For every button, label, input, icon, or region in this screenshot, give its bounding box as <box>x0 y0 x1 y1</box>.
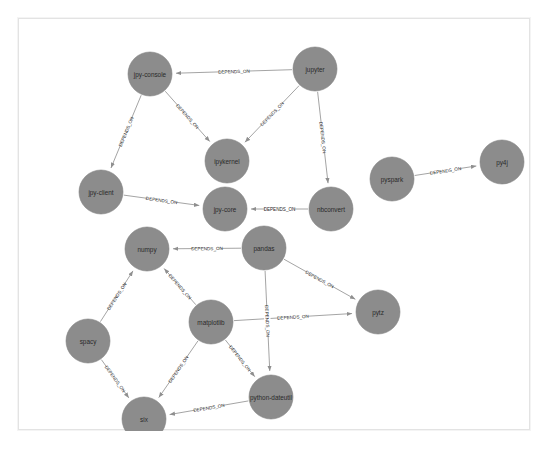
graph-canvas[interactable]: DEPENDS_ONDEPENDS_ONDEPENDS_ONDEPENDS_ON… <box>19 19 531 431</box>
node-circle[interactable] <box>79 170 123 214</box>
graph-edge-label: DEPENDS_ON <box>193 402 225 414</box>
graph-node-jupyter[interactable]: jupyter <box>293 47 337 91</box>
graph-node-pytz[interactable]: pytz <box>356 290 400 334</box>
edge-label-background <box>194 402 223 413</box>
graph-edge-label: DEPENDS_ON <box>145 195 177 206</box>
graph-edge-label: DEPENDS_ON <box>263 305 271 337</box>
edge-label-background <box>220 68 249 75</box>
edge-label-background <box>229 345 252 371</box>
graph-edge-label: DEPENDS_ON <box>103 364 127 393</box>
edge-label-background <box>106 283 127 310</box>
graph-edge-label: DEPENDS_ON <box>304 269 335 290</box>
graph-edge-label: DEPENDS_ON <box>264 206 296 212</box>
graph-node-pandas[interactable]: pandas <box>242 226 286 270</box>
graph-node-matplotlib[interactable]: matplotlib <box>189 300 233 344</box>
node-circle[interactable] <box>480 140 524 184</box>
edge-label-background <box>168 356 189 383</box>
graph-edge-label: DEPENDS_ON <box>167 273 193 301</box>
node-circle[interactable] <box>122 397 166 431</box>
node-circle[interactable] <box>356 290 400 334</box>
node-circle[interactable] <box>249 375 293 419</box>
node-circle[interactable] <box>242 226 286 270</box>
edge-label-background <box>431 165 460 176</box>
edge-label-background <box>104 365 126 392</box>
edge-label-background <box>264 307 272 336</box>
graph-visualization-app: DEPENDS_ONDEPENDS_ONDEPENDS_ONDEPENDS_ON… <box>0 0 553 449</box>
node-circle[interactable] <box>128 52 172 96</box>
edge-label-background <box>147 195 176 205</box>
edge-label-background <box>176 104 200 130</box>
edge-label-background <box>318 123 328 152</box>
node-circle[interactable] <box>203 187 247 231</box>
graph-node-numpy[interactable]: numpy <box>125 227 169 271</box>
graph-node-pyspark[interactable]: pyspark <box>370 157 414 201</box>
node-circle[interactable] <box>189 300 233 344</box>
edge-label-background <box>306 269 334 289</box>
graph-edge-label: DEPENDS_ON <box>228 344 253 373</box>
graph-node-python-dateutil[interactable]: python-dateutil <box>249 375 293 419</box>
graph-node-jpy-core[interactable]: jpy-core <box>203 187 247 231</box>
edge-label-background <box>265 206 294 212</box>
graph-canvas-frame[interactable]: DEPENDS_ONDEPENDS_ONDEPENDS_ONDEPENDS_ON… <box>18 18 530 430</box>
graph-edge-label: DEPENDS_ON <box>167 354 190 384</box>
graph-edge-label: DEPENDS_ON <box>191 245 223 252</box>
graph-edge-label: DEPENDS_ON <box>318 121 328 153</box>
edge-label-background <box>168 274 192 300</box>
edge-label-background <box>118 117 135 146</box>
graph-edge-label: DEPENDS_ON <box>117 116 135 148</box>
node-circle[interactable] <box>293 47 337 91</box>
node-circle[interactable] <box>370 157 414 201</box>
graph-node-jpy-console[interactable]: jpy-console <box>128 52 172 96</box>
graph-node-ipykernel[interactable]: ipykernel <box>205 139 249 183</box>
graph-edge-label: DEPENDS_ON <box>218 68 250 75</box>
node-circle[interactable] <box>309 187 353 231</box>
graph-node-py4j[interactable]: py4j <box>480 140 524 184</box>
graph-edge-label: DEPENDS_ON <box>105 281 127 311</box>
graph-node-six[interactable]: six <box>122 397 166 431</box>
graph-node-jpy-client[interactable]: jpy-client <box>79 170 123 214</box>
graph-edge-label: DEPENDS_ON <box>277 313 309 321</box>
graph-node-nbconvert[interactable]: nbconvert <box>309 187 353 231</box>
node-circle[interactable] <box>205 139 249 183</box>
graph-nodes-layer: jpy-consolejupyteripykerneljpy-clientjpy… <box>66 47 524 431</box>
graph-node-spacy[interactable]: spacy <box>66 319 110 363</box>
edge-label-background <box>260 101 284 126</box>
node-circle[interactable] <box>66 319 110 363</box>
edge-label-background <box>193 245 222 252</box>
graph-edge-label: DEPENDS_ON <box>259 100 286 127</box>
edge-label-background <box>279 313 308 321</box>
graph-edge-label: DEPENDS_ON <box>175 102 201 130</box>
node-circle[interactable] <box>125 227 169 271</box>
graph-edge-label: DEPENDS_ON <box>429 165 461 176</box>
